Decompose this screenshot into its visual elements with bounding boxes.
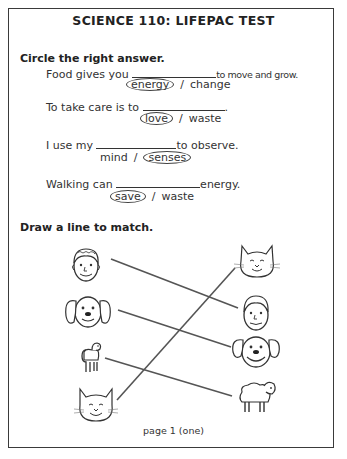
dog-face-icon[interactable] — [230, 332, 282, 372]
dog-face-icon[interactable] — [62, 292, 114, 332]
man-face-icon[interactable] — [238, 290, 274, 334]
match-lines — [0, 0, 347, 459]
page-number: page 1 (one) — [0, 425, 347, 436]
line-cat-cat — [117, 268, 235, 400]
line-man-man — [111, 259, 238, 308]
line-dog-dog — [118, 310, 231, 347]
cat-face-icon[interactable] — [232, 243, 282, 283]
cat-face-icon[interactable] — [72, 385, 120, 425]
man-face-icon[interactable] — [66, 243, 106, 285]
lamb-icon[interactable] — [78, 340, 104, 376]
sheep-icon[interactable] — [236, 378, 278, 418]
line-lamb-sheep — [105, 358, 232, 396]
